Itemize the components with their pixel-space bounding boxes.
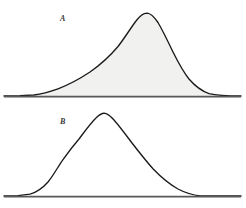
- curve-b-chart: [0, 104, 246, 208]
- panel-a-label: A: [60, 15, 65, 23]
- curve-a-fill: [4, 13, 241, 96]
- panel-b: B: [0, 104, 246, 208]
- distribution-figure: A B: [0, 0, 246, 208]
- curve-a-chart: [0, 0, 246, 104]
- panel-b-label: B: [60, 118, 65, 126]
- panel-a: A: [0, 0, 246, 104]
- curve-b-fill: [4, 113, 241, 196]
